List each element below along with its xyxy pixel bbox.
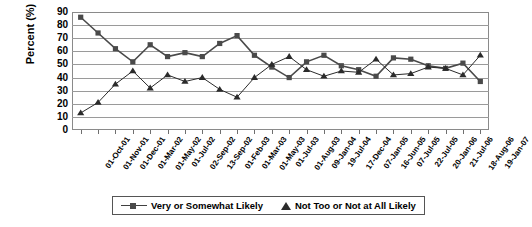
data-point-square bbox=[478, 79, 483, 84]
series-line bbox=[81, 17, 481, 81]
legend-label: Very or Somewhat Likely bbox=[151, 200, 263, 211]
data-point-square bbox=[460, 61, 465, 66]
x-axis-tick bbox=[168, 130, 169, 134]
data-point-square bbox=[321, 53, 326, 58]
data-point-square bbox=[373, 74, 378, 79]
data-point-square bbox=[217, 41, 222, 46]
x-axis-tick bbox=[202, 130, 203, 134]
series-not-too-or-not-at-all-likely bbox=[77, 52, 484, 116]
x-axis-tick bbox=[115, 130, 116, 134]
x-axis-tick bbox=[150, 130, 151, 134]
x-axis-tick bbox=[324, 130, 325, 134]
x-axis-tick bbox=[237, 130, 238, 134]
x-axis-tick bbox=[307, 130, 308, 134]
x-axis-tick bbox=[446, 130, 447, 134]
legend-label: Not Too or Not at All Likely bbox=[295, 200, 416, 211]
data-point-square bbox=[148, 42, 153, 47]
data-point-square bbox=[234, 33, 239, 38]
data-point-triangle bbox=[129, 68, 136, 74]
x-axis-tick bbox=[254, 130, 255, 134]
x-axis-tick bbox=[98, 130, 99, 134]
data-point-square bbox=[78, 15, 83, 20]
data-point-triangle bbox=[477, 52, 484, 58]
x-axis-tick bbox=[463, 130, 464, 134]
data-point-square bbox=[113, 46, 118, 51]
series-very-or-somewhat-likely bbox=[78, 15, 483, 84]
x-axis-tick bbox=[272, 130, 273, 134]
data-point-triangle bbox=[251, 74, 258, 80]
data-point-square bbox=[252, 53, 257, 58]
plot-area bbox=[72, 12, 489, 130]
x-axis-tick bbox=[428, 130, 429, 134]
y-axis-title: Percent (%) bbox=[24, 0, 36, 89]
data-point-triangle bbox=[372, 56, 379, 62]
data-point-square bbox=[130, 59, 135, 64]
data-point-triangle bbox=[216, 86, 223, 92]
x-axis-tick bbox=[376, 130, 377, 134]
legend-entry[interactable]: Not Too or Not at All Likely bbox=[273, 200, 416, 211]
data-point-square bbox=[287, 75, 292, 80]
data-point-triangle bbox=[268, 61, 275, 67]
y-axis-tick-label: 60 bbox=[38, 46, 68, 56]
triangle-marker-icon bbox=[273, 201, 291, 211]
chart-legend: Very or Somewhat LikelyNot Too or Not at… bbox=[112, 196, 425, 215]
x-axis-tick bbox=[185, 130, 186, 134]
y-axis-tick-label: 70 bbox=[38, 33, 68, 43]
x-axis-tick-labels: 01-Oct-0101-Nov-0101-Dec-0101-Mar-0201-M… bbox=[72, 135, 489, 187]
x-axis-tick bbox=[289, 130, 290, 134]
x-axis-tick bbox=[81, 130, 82, 134]
y-axis-tick-label: 50 bbox=[38, 59, 68, 69]
y-axis-tick-label: 20 bbox=[38, 99, 68, 109]
x-axis-tick bbox=[220, 130, 221, 134]
series-layer bbox=[72, 12, 489, 130]
square-line-marker-icon bbox=[121, 201, 147, 211]
y-axis-tick-label: 90 bbox=[38, 7, 68, 17]
legend-entry[interactable]: Very or Somewhat Likely bbox=[121, 200, 263, 211]
x-axis-tick bbox=[341, 130, 342, 134]
data-point-square bbox=[165, 54, 170, 59]
data-point-triangle bbox=[164, 71, 171, 77]
data-point-square bbox=[304, 59, 309, 64]
y-axis-tick-labels: 9080706050403020100 bbox=[36, 12, 68, 130]
data-point-triangle bbox=[338, 68, 345, 74]
data-point-square bbox=[391, 55, 396, 60]
x-axis-tick bbox=[393, 130, 394, 134]
data-point-triangle bbox=[77, 109, 84, 115]
series-line bbox=[81, 55, 481, 113]
data-point-square bbox=[95, 30, 100, 35]
y-axis-tick-label: 0 bbox=[38, 125, 68, 135]
x-axis-tick bbox=[480, 130, 481, 134]
data-point-triangle bbox=[286, 53, 293, 59]
data-point-triangle bbox=[303, 66, 310, 72]
y-axis-tick-label: 80 bbox=[38, 20, 68, 30]
y-axis-tick-label: 30 bbox=[38, 86, 68, 96]
y-axis-tick-label: 40 bbox=[38, 73, 68, 83]
data-point-square bbox=[408, 57, 413, 62]
y-axis-tick-label: 10 bbox=[38, 112, 68, 122]
data-point-triangle bbox=[112, 81, 119, 87]
x-axis-tick bbox=[359, 130, 360, 134]
data-point-square bbox=[200, 54, 205, 59]
data-point-triangle bbox=[199, 74, 206, 80]
x-axis-tick bbox=[411, 130, 412, 134]
x-axis-tick bbox=[133, 130, 134, 134]
data-point-square bbox=[182, 50, 187, 55]
